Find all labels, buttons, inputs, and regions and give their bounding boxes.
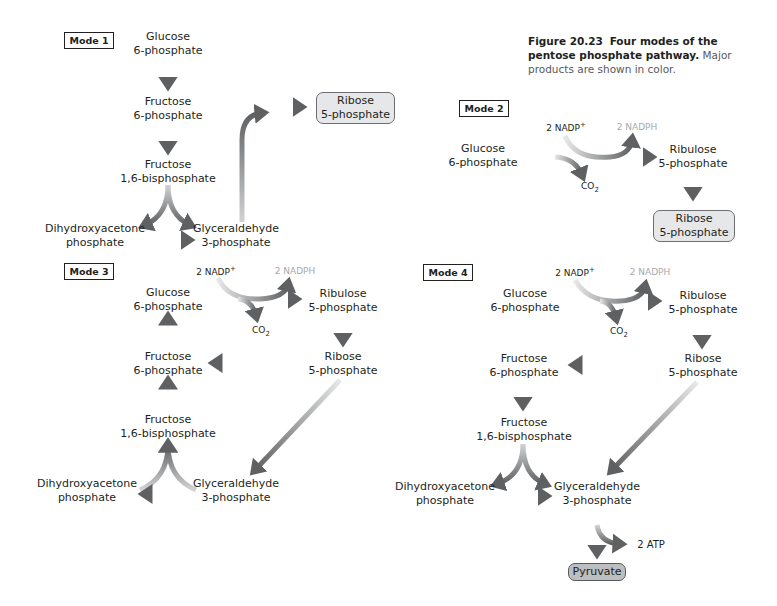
mode1-glyceraldehyde-3-phosphate: Glyceraldehyde3-phosphate	[193, 222, 279, 250]
mode4-dihydroxyacetone-phosphate: Dihydroxyacetonephosphate	[395, 480, 495, 508]
mode2-ribose-5-phosphate-product: Ribose5-phosphate	[653, 210, 735, 242]
mode4-pyruvate-product: Pyruvate	[568, 563, 626, 581]
mode2-nadph: 2 NADPH	[617, 122, 658, 133]
mode1-glucose-6-phosphate: Glucose6-phosphate	[133, 30, 202, 58]
mode3-co2: CO2	[252, 325, 270, 340]
mode-1-label: Mode 1	[64, 32, 114, 49]
mode4-fructose-1-6-bisphosphate: Fructose1,6-bisphosphate	[476, 416, 571, 444]
mode4-ribose-5-phosphate: Ribose5-phosphate	[668, 352, 737, 380]
mode1-fructose-6-phosphate: Fructose6-phosphate	[133, 95, 202, 123]
mode4-nadp-plus: 2 NADP+	[555, 265, 595, 279]
mode3-dihydroxyacetone-phosphate: Dihydroxyacetonephosphate	[37, 477, 137, 505]
mode2-nadp-plus: 2 NADP+	[546, 120, 586, 134]
mode2-ribulose-5-phosphate: Ribulose5-phosphate	[658, 143, 727, 171]
mode3-nadph: 2 NADPH	[275, 266, 316, 277]
mode3-glucose-6-phosphate: Glucose6-phosphate	[133, 286, 202, 314]
mode4-nadph: 2 NADPH	[630, 267, 671, 278]
mode2-co2: CO2	[581, 181, 599, 196]
mode3-ribose-5-phosphate: Ribose5-phosphate	[308, 350, 377, 378]
mode-2-label: Mode 2	[459, 100, 509, 117]
mode3-glyceraldehyde-3-phosphate: Glyceraldehyde3-phosphate	[193, 477, 279, 505]
mode3-fructose-6-phosphate: Fructose6-phosphate	[133, 350, 202, 378]
mode4-ribulose-5-phosphate: Ribulose5-phosphate	[668, 289, 737, 317]
figure-caption: Figure 20.23 Four modes of the pentose p…	[528, 34, 768, 76]
mode2-glucose-6-phosphate: Glucose6-phosphate	[448, 142, 517, 170]
mode3-fructose-1-6-bisphosphate: Fructose1,6-bisphosphate	[120, 413, 215, 441]
mode3-ribulose-5-phosphate: Ribulose5-phosphate	[308, 287, 377, 315]
pathway-arrows	[0, 0, 777, 606]
figure-number: Figure 20.23	[528, 35, 603, 47]
mode1-fructose-1-6-bisphosphate: Fructose1,6-bisphosphate	[120, 158, 215, 186]
mode1-ribose-5-phosphate-product: Ribose5-phosphate	[316, 92, 395, 124]
mode4-glucose-6-phosphate: Glucose6-phosphate	[490, 287, 559, 315]
mode4-fructose-6-phosphate: Fructose6-phosphate	[489, 352, 558, 380]
mode1-dihydroxyacetone-phosphate: Dihydroxyacetonephosphate	[45, 222, 145, 250]
mode4-co2: CO2	[610, 326, 628, 341]
mode-4-label: Mode 4	[423, 264, 473, 281]
mode4-glyceraldehyde-3-phosphate: Glyceraldehyde3-phosphate	[554, 480, 640, 508]
mode4-atp: 2 ATP	[637, 539, 665, 550]
mode3-nadp-plus: 2 NADP+	[196, 264, 236, 278]
mode-3-label: Mode 3	[64, 263, 114, 280]
